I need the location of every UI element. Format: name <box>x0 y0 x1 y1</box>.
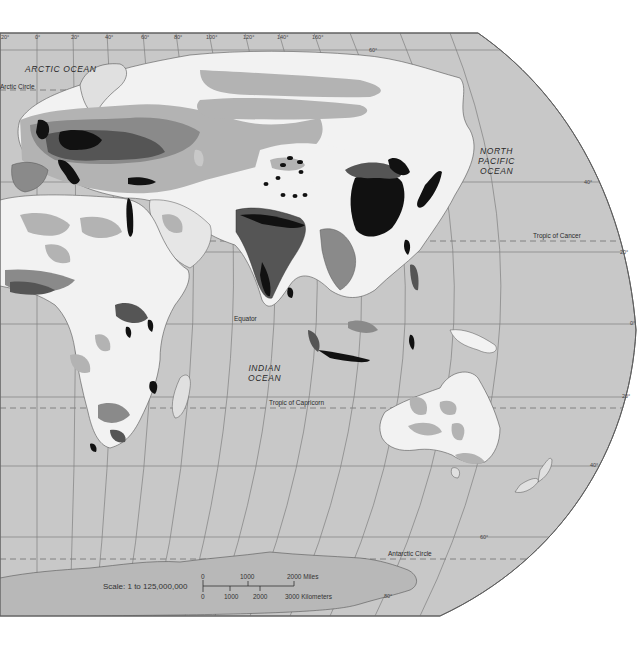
parallel-label: 0° <box>630 321 635 327</box>
scale-km-2000: 2000 <box>253 594 267 601</box>
parallel-label: 60° <box>480 535 488 541</box>
meridian-label: 100° <box>206 35 217 41</box>
parallel-label: 80° <box>384 594 392 600</box>
scale-label: Scale: 1 to 125,000,000 <box>103 583 188 591</box>
population-density-map: 20° 0° 20° 40° 60° 80° 100° 120° 140° 16… <box>0 0 638 653</box>
meridian-label: 160° <box>312 35 323 41</box>
label-antarctic-circle: Antarctic Circle <box>388 551 432 558</box>
ocean-label-arctic: ARCTIC OCEAN <box>25 64 96 74</box>
label-arctic-circle: Arctic Circle <box>0 84 35 91</box>
meridian-label: 80° <box>174 35 182 41</box>
meridian-label: 0° <box>35 35 40 41</box>
scale-km-3000: 3000 Kilometers <box>285 594 332 601</box>
label-equator: Equator <box>234 316 257 323</box>
parallel-label: 40° <box>590 463 598 469</box>
meridian-label: 20° <box>71 35 79 41</box>
meridian-label: 120° <box>243 35 254 41</box>
scale-miles-2000: 2000 Miles <box>287 574 318 581</box>
label-tropic-of-cancer: Tropic of Cancer <box>533 233 581 240</box>
meridian-label: 40° <box>105 35 113 41</box>
meridian-label: 140° <box>277 35 288 41</box>
parallel-label: 20° <box>620 250 628 256</box>
ocean-label-indian: INDIAN OCEAN <box>248 363 281 383</box>
scale-miles-1000: 1000 <box>240 574 254 581</box>
scale-km-1000: 1000 <box>224 594 238 601</box>
meridian-label: 60° <box>141 35 149 41</box>
parallel-label: 60° <box>369 48 377 54</box>
parallel-label: 20° <box>622 394 630 400</box>
map-graphic <box>0 0 638 653</box>
label-tropic-of-capricorn: Tropic of Capricorn <box>269 400 324 407</box>
parallel-label: 40° <box>584 180 592 186</box>
scale-km-0: 0 <box>201 594 205 601</box>
ocean-label-north-pacific: NORTH PACIFIC OCEAN <box>478 146 515 177</box>
meridian-label: 20° <box>1 35 9 41</box>
scale-miles-0: 0 <box>201 574 205 581</box>
